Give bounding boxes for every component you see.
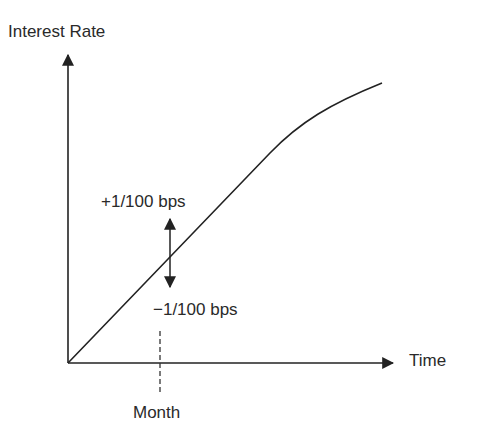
y-axis-label: Interest Rate [8,23,105,40]
interest-rate-curve [68,83,382,363]
diagram-canvas: Interest Rate Time +1/100 bps −1/100 bps… [0,0,479,438]
lower-shift-label: −1/100 bps [153,301,238,318]
x-axis-label: Time [409,352,446,369]
month-tick-label: Month [133,404,180,421]
diagram-graphics [0,0,479,438]
upper-shift-label: +1/100 bps [101,193,186,210]
